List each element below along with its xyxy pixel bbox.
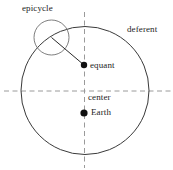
epicycle-label: epicycle (22, 3, 53, 13)
epicycle-to-equant-line (52, 38, 85, 66)
equant-point (81, 62, 87, 68)
earth-label: Earth (91, 107, 111, 117)
earth-point (80, 109, 87, 116)
equant-label: equant (90, 60, 115, 70)
ptolemaic-model-diagram: epicycle deferent equant center Earth (0, 0, 173, 170)
deferent-label: deferent (127, 24, 157, 34)
center-label: center (88, 92, 111, 102)
